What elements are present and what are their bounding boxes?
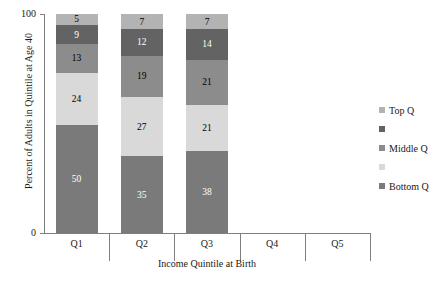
bar-segment[interactable]: 12 <box>121 29 163 55</box>
bar-segment[interactable]: 35 <box>121 156 163 233</box>
category-separator <box>370 233 371 261</box>
legend-item[interactable] <box>379 122 385 136</box>
legend-swatch-icon <box>379 164 385 170</box>
bar-segment[interactable]: 50 <box>56 125 98 233</box>
bar-segment[interactable]: 7 <box>121 14 163 29</box>
bar-segment[interactable]: 21 <box>186 105 228 151</box>
bar-segment[interactable]: 7 <box>186 14 228 29</box>
y-tick-100: 100 <box>40 14 44 15</box>
bar-segment-value: 9 <box>74 30 79 40</box>
bar-segment[interactable]: 24 <box>56 73 98 125</box>
bar-segment-value: 7 <box>139 17 144 27</box>
bar-segment-value: 19 <box>137 71 147 81</box>
bar-segment-value: 50 <box>72 174 82 184</box>
bar-segment-value: 38 <box>202 187 212 197</box>
legend-item-label: Bottom Q <box>389 181 429 192</box>
x-axis-label-q3[interactable]: Q3 <box>174 238 239 250</box>
bar-segment-value: 24 <box>72 94 82 104</box>
bar-segment-value: 12 <box>137 37 147 47</box>
y-tick-0: 0 <box>40 233 44 234</box>
bar-segment[interactable]: 9 <box>56 25 98 45</box>
stacked-bar-chart: Percent of Adults in Quintile at Age 40 … <box>0 0 446 286</box>
bar-q1[interactable]: 50241395 <box>56 14 98 233</box>
x-axis-label-q5[interactable]: Q5 <box>305 238 370 250</box>
legend-item[interactable]: Top Q <box>379 103 414 117</box>
plot-area: 100 0 Q1Q2Q3Q4Q5 50241395352719127382121… <box>44 14 370 233</box>
bar-segment-value: 21 <box>202 123 212 133</box>
bar-segment-value: 14 <box>202 39 212 49</box>
y-axis-title: Percent of Adults in Quintile at Age 40 <box>23 6 35 216</box>
bar-segment-value: 21 <box>202 77 212 87</box>
x-axis-label-q4[interactable]: Q4 <box>240 238 305 250</box>
bar-segment[interactable]: 38 <box>186 151 228 233</box>
y-tick-label-0: 0 <box>31 228 36 238</box>
legend-swatch-icon <box>379 183 385 189</box>
legend-item[interactable]: Bottom Q <box>379 179 429 193</box>
bar-segment[interactable]: 14 <box>186 29 228 59</box>
bar-segment-value: 35 <box>137 190 147 200</box>
bar-segment[interactable]: 13 <box>56 44 98 72</box>
x-axis-title: Income Quintile at Birth <box>44 258 370 270</box>
legend-item-label: Top Q <box>389 105 414 116</box>
legend-swatch-icon <box>379 145 385 151</box>
bar-segment-value: 7 <box>205 17 210 27</box>
legend-swatch-icon <box>379 107 385 113</box>
bar-segment[interactable]: 5 <box>56 14 98 25</box>
bar-q2[interactable]: 352719127 <box>121 14 163 233</box>
legend-item-label: Middle Q <box>389 143 428 154</box>
bar-segment[interactable]: 19 <box>121 56 163 98</box>
bar-segment-value: 13 <box>72 53 82 63</box>
bar-q3[interactable]: 382121147 <box>186 14 228 233</box>
legend-item[interactable]: Middle Q <box>379 141 428 155</box>
legend-swatch-icon <box>379 126 385 132</box>
bar-segment[interactable]: 21 <box>186 60 228 106</box>
bar-segment-value: 5 <box>74 14 79 24</box>
bar-segment[interactable]: 27 <box>121 97 163 156</box>
legend-item[interactable] <box>379 160 385 174</box>
bar-segment-value: 27 <box>137 122 147 132</box>
y-axis-line <box>44 14 45 233</box>
x-axis-label-q1[interactable]: Q1 <box>44 238 109 250</box>
y-tick-label-100: 100 <box>21 9 36 19</box>
x-axis-line <box>44 233 370 234</box>
x-axis-label-q2[interactable]: Q2 <box>109 238 174 250</box>
